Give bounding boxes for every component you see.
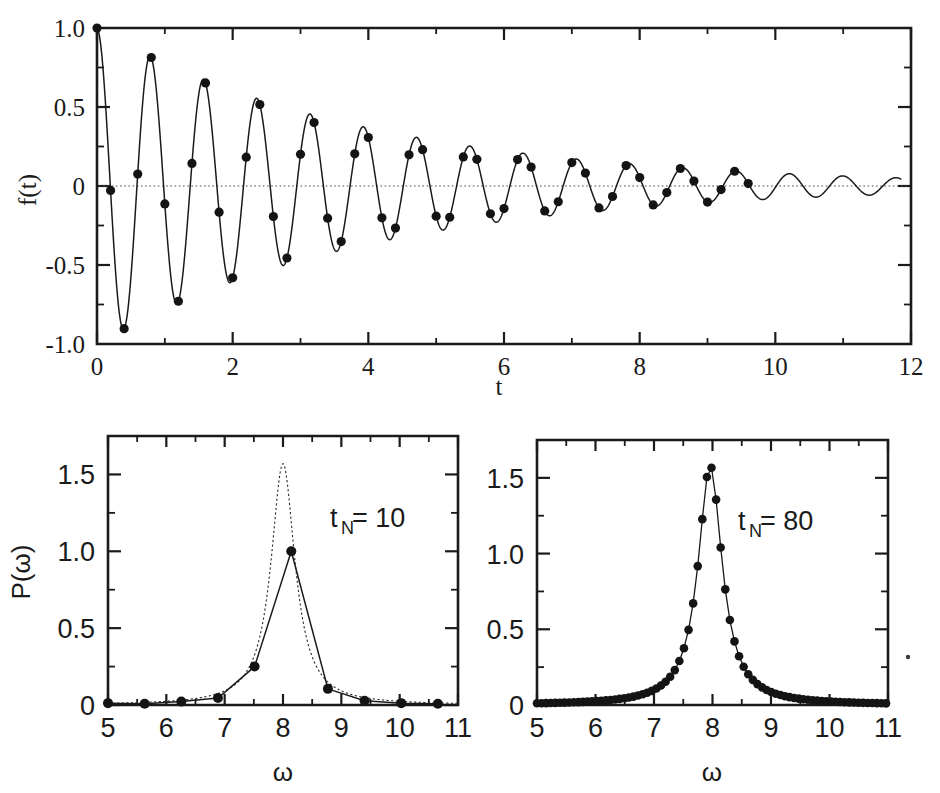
top-data-point <box>364 133 373 142</box>
br-data-point <box>680 644 689 653</box>
bl-data-point <box>433 699 443 709</box>
top-data-point <box>608 192 617 201</box>
br-ytick-label: 0 <box>509 691 524 721</box>
top-data-point <box>337 237 346 246</box>
br-annotation: t N = 80 <box>738 506 813 541</box>
top-data-point <box>174 297 183 306</box>
br-xtick-label: 6 <box>588 713 603 743</box>
bl-xtick-label: 6 <box>159 713 174 743</box>
top-data-point <box>472 155 481 164</box>
br-discrete-spectrum-line <box>537 468 886 704</box>
br-data-point <box>675 657 684 666</box>
br-data-point <box>712 495 721 504</box>
bl-data-point <box>213 693 223 703</box>
bl-xtick-label: 10 <box>385 713 415 743</box>
top-data-point <box>689 176 698 185</box>
top-data-point <box>499 204 508 213</box>
top-xtick-label: 4 <box>362 353 375 380</box>
br-ytick-label: 0.5 <box>486 615 524 645</box>
bl-ytick-label: 0 <box>80 691 95 721</box>
top-xaxis-title: t <box>496 373 503 400</box>
top-data-point <box>649 200 658 209</box>
top-data-point <box>133 170 142 179</box>
br-data-point <box>716 543 725 552</box>
bl-ytick-label: 1.0 <box>57 537 95 567</box>
panel-spectrum-tn10: 567891011 00.51.01.5 ω P(ω) t N = 10 <box>6 436 472 787</box>
top-data-point <box>716 185 725 194</box>
bl-discrete-spectrum-line <box>108 551 438 703</box>
br-data-point <box>693 562 702 571</box>
top-xtick-label: 8 <box>633 353 646 380</box>
top-ytick-label: 1.0 <box>54 15 85 42</box>
top-xtick-label: 0 <box>91 353 104 380</box>
top-data-point <box>242 153 251 162</box>
bl-xtick-label: 7 <box>217 713 232 743</box>
bl-data-point <box>323 684 333 694</box>
bl-data-point <box>250 662 260 672</box>
top-data-point <box>309 118 318 127</box>
top-data-point <box>187 159 196 168</box>
br-xtick-label: 5 <box>529 713 544 743</box>
br-xtick-label: 10 <box>814 713 844 743</box>
br-data-point <box>703 473 712 482</box>
top-data-point <box>255 100 264 109</box>
top-data-point <box>513 155 522 164</box>
top-data-point <box>120 324 129 333</box>
bl-ytick-label: 1.5 <box>57 460 95 490</box>
bl-xtick-label: 8 <box>275 713 290 743</box>
top-ytick-label: -1.0 <box>45 331 85 358</box>
top-xtick-label: 2 <box>226 353 239 380</box>
scan-speck <box>906 655 910 659</box>
bl-xtick-label: 5 <box>100 713 115 743</box>
top-data-point <box>730 167 739 176</box>
br-data-point <box>726 616 735 625</box>
top-data-point <box>391 224 400 233</box>
top-data-point <box>581 168 590 177</box>
top-data-point <box>676 164 685 173</box>
top-data-point <box>201 78 210 87</box>
br-plot-frame <box>537 440 888 705</box>
top-data-point <box>527 162 536 171</box>
br-xtick-label: 9 <box>763 713 778 743</box>
br-ytick-label: 1.0 <box>486 540 524 570</box>
bl-data-point <box>286 546 296 556</box>
panel-spectrum-tn80: 567891011 00.51.01.5 ω t N = 80 <box>486 440 910 787</box>
bl-xtick-label: 11 <box>444 713 472 743</box>
top-data-point <box>594 203 603 212</box>
bl-ytick-label: 0.5 <box>57 614 95 644</box>
top-data-point <box>377 213 386 222</box>
top-yaxis-title: f(t) <box>14 174 42 206</box>
br-xtick-label: 8 <box>705 713 720 743</box>
br-data-point <box>882 699 891 708</box>
bl-yaxis-title: P(ω) <box>6 545 36 600</box>
top-ytick-label: -0.5 <box>45 252 85 279</box>
top-data-point <box>418 145 427 154</box>
top-data-point <box>662 188 671 197</box>
top-data-point <box>459 152 468 161</box>
top-data-point <box>269 212 278 221</box>
panel-damped-oscillation: 024681012 -1.0-0.500.51.0 t f(t) <box>14 15 924 400</box>
top-ytick-label: 0.5 <box>54 94 85 121</box>
top-data-point <box>744 179 753 188</box>
top-data-point <box>635 173 644 182</box>
br-xaxis-title: ω <box>702 757 722 787</box>
figure-canvas: 024681012 -1.0-0.500.51.0 t f(t) 5678910… <box>0 0 940 793</box>
br-data-point <box>684 626 693 635</box>
bl-xaxis-title: ω <box>273 757 293 787</box>
br-data-point <box>735 652 744 661</box>
br-data-point <box>670 666 679 675</box>
top-data-point <box>703 198 712 207</box>
top-data-point <box>486 209 495 218</box>
top-ytick-label: 0 <box>73 173 86 200</box>
bl-data-point <box>140 699 150 709</box>
br-annotation-value: = 80 <box>760 506 813 536</box>
top-data-point <box>147 53 156 62</box>
top-data-point <box>282 253 291 262</box>
top-xtick-label: 10 <box>763 353 788 380</box>
top-xtick-label: 12 <box>899 353 924 380</box>
br-xtick-label: 11 <box>874 713 902 743</box>
br-data-point <box>730 637 739 646</box>
bl-data-point <box>396 698 406 708</box>
top-data-point <box>445 213 454 222</box>
top-data-point <box>228 273 237 282</box>
